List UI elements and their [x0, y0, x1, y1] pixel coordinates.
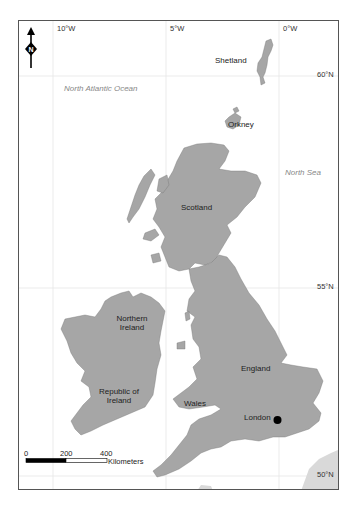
svg-text:N: N	[28, 46, 33, 53]
lon-label-0w: 0°W	[283, 24, 297, 33]
label-shetland: Shetland	[215, 56, 247, 65]
scale-bar-graphic	[26, 459, 107, 463]
label-england: England	[241, 364, 270, 373]
north-arrow-icon: N	[21, 26, 41, 71]
lat-label-50n: 50°N	[317, 470, 334, 479]
land-ireland	[61, 291, 165, 435]
lat-label-55n: 55°N	[317, 282, 334, 291]
channel-islands	[197, 485, 213, 490]
label-wales: Wales	[184, 399, 206, 408]
label-orkney: Orkney	[228, 120, 254, 129]
lat-label-60n: 60°N	[317, 70, 334, 79]
sea-label-north-atlantic: North Atlantic Ocean	[64, 84, 138, 93]
land-isle-of-man	[185, 311, 190, 321]
london-marker	[274, 416, 282, 424]
map-frame: N 10°W 5°W 0°W 60°N 55°N 50°N North Atla…	[18, 20, 339, 490]
sea-label-north-sea: North Sea	[285, 168, 321, 177]
land-islay	[151, 253, 161, 263]
land-outer-hebrides	[127, 169, 155, 223]
label-scotland: Scotland	[181, 203, 212, 212]
lon-label-10w: 10°W	[57, 24, 75, 33]
scale-tick-0: 0	[24, 449, 28, 458]
scale-unit: Kilometers	[108, 457, 143, 466]
scale-tick-200: 200	[60, 449, 73, 458]
land-mull	[143, 229, 159, 241]
land-anglesey	[177, 341, 185, 349]
land-shetland	[257, 39, 273, 85]
lon-label-5w: 5°W	[170, 24, 184, 33]
label-northern-ireland: Northern Ireland	[107, 314, 157, 332]
label-republic-of-ireland: Republic of Ireland	[89, 387, 149, 405]
label-london: London	[244, 413, 271, 422]
